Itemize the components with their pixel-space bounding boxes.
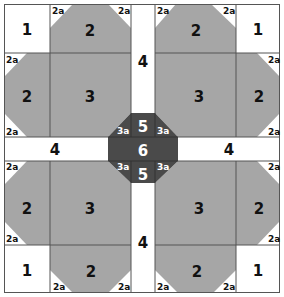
label-side-piece: 2 — [22, 88, 32, 106]
quilt-block-diagram: 1 2 2 3 2a 2a 2a 2a 1 2 2 3 2a 2a 2a 2a … — [0, 0, 284, 297]
label-strip-top: 4 — [138, 53, 148, 71]
label-corner-triangle: 2a — [53, 282, 65, 292]
label-side-piece: 2 — [191, 22, 201, 40]
label-strip-left: 4 — [50, 141, 60, 159]
label-side-piece: 2 — [254, 88, 264, 106]
label-strip-right: 4 — [224, 141, 234, 159]
label-center-block: 3 — [85, 200, 95, 218]
label-side-piece: 2 — [86, 263, 96, 281]
label-octagon-triangle: 3a — [117, 162, 129, 172]
label-corner-triangle: 2a — [118, 6, 130, 16]
label-corner-square: 1 — [22, 21, 32, 39]
label-octagon-triangle: 3a — [117, 126, 129, 136]
label-center-block: 3 — [85, 88, 95, 106]
label-corner-triangle: 2a — [6, 234, 18, 244]
label-strip-bottom: 4 — [138, 234, 148, 252]
label-side-piece: 2 — [85, 22, 95, 40]
label-corner-square: 1 — [22, 262, 32, 280]
label-corner-triangle: 2a — [6, 55, 18, 65]
label-corner-square: 1 — [253, 21, 263, 39]
label-corner-triangle: 2a — [6, 162, 18, 172]
label-corner-triangle: 2a — [157, 282, 169, 292]
label-side-piece: 2 — [22, 200, 32, 218]
label-corner-triangle: 2a — [268, 162, 280, 172]
label-corner-triangle: 2a — [118, 282, 130, 292]
label-corner-triangle: 2a — [268, 55, 280, 65]
label-corner-triangle: 2a — [157, 6, 169, 16]
label-corner-triangle: 2a — [6, 127, 18, 137]
label-corner-triangle: 2a — [52, 6, 64, 16]
label-side-piece: 2 — [192, 263, 202, 281]
label-center-block: 3 — [194, 88, 204, 106]
label-octagon-top: 5 — [138, 118, 148, 136]
label-corner-triangle: 2a — [268, 234, 280, 244]
label-corner-triangle: 2a — [223, 282, 235, 292]
label-corner-triangle: 2a — [268, 127, 280, 137]
label-center-block: 3 — [194, 200, 204, 218]
label-octagon-triangle: 3a — [157, 126, 169, 136]
label-octagon-triangle: 3a — [157, 162, 169, 172]
label-octagon-center: 6 — [138, 142, 148, 160]
label-corner-square: 1 — [253, 262, 263, 280]
label-octagon-bottom: 5 — [138, 166, 148, 184]
label-side-piece: 2 — [254, 200, 264, 218]
label-corner-triangle: 2a — [223, 6, 235, 16]
